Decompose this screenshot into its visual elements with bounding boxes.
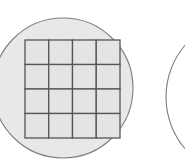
die-cell-r4c2[interactable]: [49, 114, 73, 139]
die-cell-r4c3[interactable]: [73, 114, 97, 139]
die-cell-r2c4[interactable]: [96, 65, 120, 90]
die-cell-r1c2[interactable]: [49, 40, 73, 65]
die-cell-r2c3[interactable]: [73, 65, 97, 90]
die-grid: [25, 40, 120, 138]
die-cell-r3c3[interactable]: [73, 89, 97, 114]
die-cell-r3c1[interactable]: [25, 89, 49, 114]
wafer-circle-partial: [166, 17, 185, 161]
die-cell-r3c2[interactable]: [49, 89, 73, 114]
die-cell-r1c4[interactable]: [96, 40, 120, 65]
canvas: [0, 0, 185, 161]
die-cell-r1c1[interactable]: [25, 40, 49, 65]
die-cell-r3c4[interactable]: [96, 89, 120, 114]
die-cell-r1c3[interactable]: [73, 40, 97, 65]
die-cell-r2c1[interactable]: [25, 65, 49, 90]
die-cell-r2c2[interactable]: [49, 65, 73, 90]
die-cell-r4c4[interactable]: [96, 114, 120, 139]
wafer-diagram: [0, 0, 185, 161]
die-cell-r4c1[interactable]: [25, 114, 49, 139]
